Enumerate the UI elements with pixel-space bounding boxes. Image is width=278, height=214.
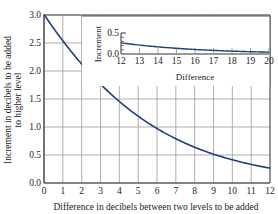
x-tick-label: 8 xyxy=(192,186,197,196)
x-tick-label: 7 xyxy=(173,186,178,196)
x-tick-label: 2 xyxy=(79,186,84,196)
inset-x-tick-label: 15 xyxy=(172,56,182,66)
inset-x-axis-label: Difference xyxy=(176,72,214,82)
inset-x-tick-label: 20 xyxy=(264,56,274,66)
y-tick-label: 2.0 xyxy=(29,66,41,76)
y-tick-label: 1.5 xyxy=(29,94,41,104)
inset-x-tick-label: 17 xyxy=(209,56,219,66)
inset-x-tick-label: 13 xyxy=(135,56,145,66)
y-tick-label: 1.0 xyxy=(29,122,41,132)
x-tick-label: 11 xyxy=(247,186,256,196)
x-tick-label: 10 xyxy=(228,186,238,196)
y-axis-label-line2: to higher level xyxy=(13,72,23,127)
y-tick-label: 2.5 xyxy=(29,38,41,48)
x-axis-label: Difference in decibels between two level… xyxy=(53,202,258,212)
y-tick-label: 0.0 xyxy=(29,178,41,188)
chart: 0123456789101112 0.00.51.01.52.02.53.0 D… xyxy=(0,0,278,214)
inset-x-tick-label: 19 xyxy=(246,56,256,66)
x-tick-label: 9 xyxy=(211,186,216,196)
x-tick-label: 12 xyxy=(265,186,275,196)
inset-x-tick-label: 14 xyxy=(153,56,163,66)
y-axis-label-line1: Increment in decibels to be added xyxy=(3,36,13,164)
y-tick-label: 0.5 xyxy=(29,150,41,160)
x-tick-label: 6 xyxy=(155,186,160,196)
inset-y-tick-label: 0.0 xyxy=(107,49,119,59)
x-tick-label: 1 xyxy=(60,186,65,196)
x-tick-label: 4 xyxy=(117,186,122,196)
inset-x-tick-label: 16 xyxy=(190,56,200,66)
x-tick-label: 3 xyxy=(98,186,103,196)
main-y-tick-labels: 0.00.51.01.52.02.53.0 xyxy=(29,10,41,188)
inset-x-tick-labels: 121314151617181920 xyxy=(116,56,274,66)
x-tick-label: 5 xyxy=(136,186,141,196)
y-tick-label: 3.0 xyxy=(29,10,41,20)
main-x-tick-labels: 0123456789101112 xyxy=(42,186,275,196)
x-tick-label: 0 xyxy=(42,186,47,196)
inset-x-tick-label: 18 xyxy=(227,56,237,66)
inset-y-tick-label: 0.5 xyxy=(107,28,119,38)
inset-y-axis-label: Increment xyxy=(93,25,103,62)
